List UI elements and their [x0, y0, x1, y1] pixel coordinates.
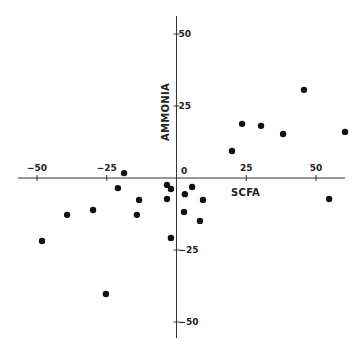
data-point [258, 123, 264, 129]
data-point [168, 235, 174, 241]
data-point [115, 185, 121, 191]
y-tick-label: −50 [179, 317, 199, 327]
y-axis-title: AMMONIA [160, 83, 171, 141]
data-point [181, 209, 187, 215]
data-point [197, 218, 203, 224]
x-tick-label: 50 [310, 163, 323, 173]
axes [18, 16, 345, 338]
data-point [326, 196, 332, 202]
data-point [103, 291, 109, 297]
data-point [229, 148, 235, 154]
y-tick-label: 50 [179, 29, 192, 39]
data-point [90, 207, 96, 213]
data-point [182, 191, 188, 197]
data-points [39, 87, 348, 298]
data-point [164, 196, 170, 202]
scatter-chart: −50−252550 5025−25−50 0 SCFA AMMONIA [0, 0, 361, 350]
data-point [189, 184, 195, 190]
x-tick-label: −25 [97, 163, 117, 173]
data-point [64, 212, 70, 218]
data-point [39, 238, 45, 244]
x-axis-title: SCFA [231, 187, 260, 198]
y-tick-label: 25 [179, 101, 192, 111]
data-point [121, 170, 127, 176]
y-tick-label: −25 [179, 245, 199, 255]
data-point [136, 197, 142, 203]
data-point [168, 186, 174, 192]
data-point [200, 197, 206, 203]
data-point [134, 212, 140, 218]
origin-label: 0 [181, 166, 187, 176]
data-point [301, 87, 307, 93]
x-tick-label: 25 [240, 163, 253, 173]
data-point [342, 129, 348, 135]
x-tick-label: −50 [27, 163, 47, 173]
data-point [239, 121, 245, 127]
data-point [280, 131, 286, 137]
